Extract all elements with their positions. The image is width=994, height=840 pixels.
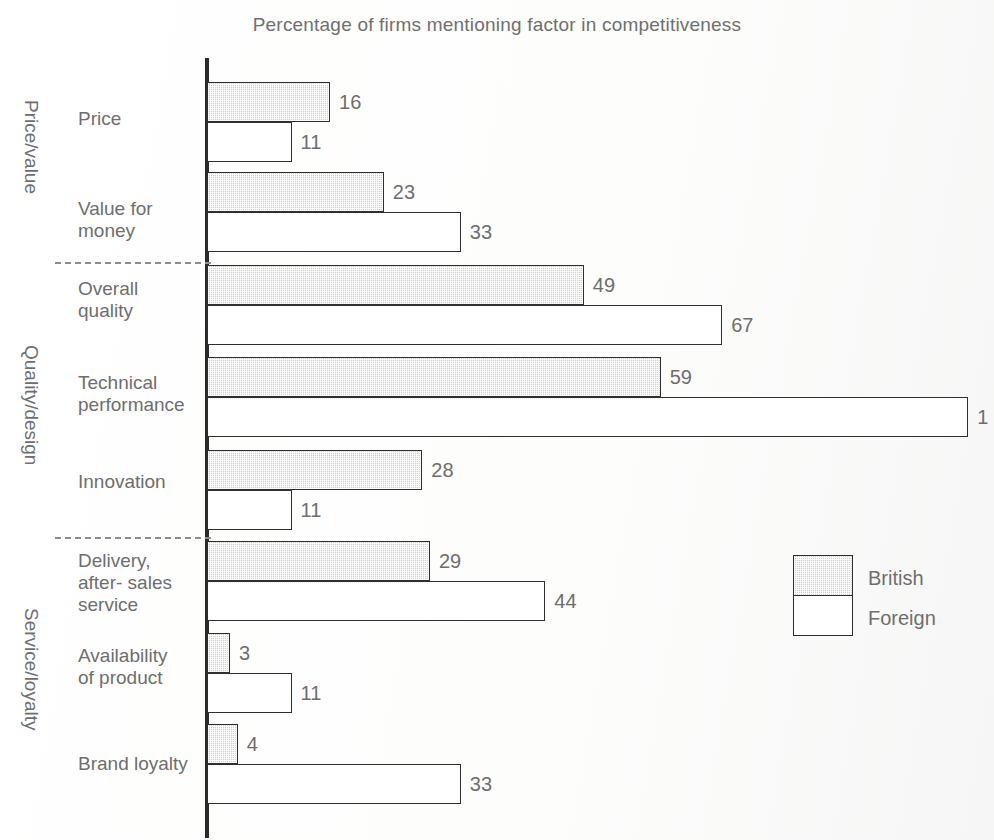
bar-value-foreign: 44 bbox=[554, 591, 576, 611]
bar-value-foreign: 11 bbox=[301, 132, 322, 152]
group-label: Price/value bbox=[20, 100, 42, 194]
plot-area: 1611Price2333Value for money4967Overall … bbox=[0, 0, 994, 840]
bar-value-british: 16 bbox=[339, 92, 361, 112]
bar-foreign bbox=[207, 212, 461, 252]
bar-british bbox=[207, 541, 430, 581]
bar-british bbox=[207, 450, 422, 490]
bar-value-british: 28 bbox=[431, 460, 453, 480]
bar-value-foreign: 33 bbox=[470, 774, 492, 794]
bar-foreign bbox=[207, 581, 545, 621]
group-label: Service/loyalty bbox=[20, 608, 42, 731]
bar-british bbox=[207, 633, 230, 673]
category-label: Value for money bbox=[78, 198, 153, 242]
bar-value-british: 29 bbox=[439, 551, 461, 571]
bar-value-foreign: 11 bbox=[301, 500, 322, 520]
bar-value-british: 23 bbox=[393, 182, 415, 202]
bar-value-foreign: 11 bbox=[301, 683, 322, 703]
category-label: Price bbox=[78, 108, 121, 130]
bar-value-british: 4 bbox=[247, 734, 258, 754]
category-label: Brand loyalty bbox=[78, 753, 188, 775]
bar-foreign bbox=[207, 764, 461, 804]
bar-value-british: 3 bbox=[239, 643, 250, 663]
bar-british bbox=[207, 357, 661, 397]
legend-swatch-foreign bbox=[793, 595, 853, 636]
bar-foreign bbox=[207, 673, 292, 713]
category-label: Innovation bbox=[78, 471, 166, 493]
bar-foreign bbox=[207, 490, 292, 530]
bar-british bbox=[207, 265, 584, 305]
bar-foreign bbox=[207, 305, 722, 345]
bar-value-british: 59 bbox=[670, 367, 692, 387]
bar-foreign bbox=[207, 397, 968, 437]
group-divider-1 bbox=[55, 262, 211, 264]
category-label: Availability of product bbox=[78, 645, 167, 689]
category-label: Technical performance bbox=[78, 372, 185, 416]
legend-label-foreign: Foreign bbox=[868, 607, 936, 630]
category-label: Delivery, after- sales service bbox=[78, 550, 172, 616]
legend-swatch-british bbox=[793, 555, 853, 596]
chart-page: Percentage of firms mentioning factor in… bbox=[0, 0, 994, 840]
group-divider-2 bbox=[55, 537, 211, 539]
group-label: Quality/design bbox=[20, 345, 42, 465]
category-label: Overall quality bbox=[78, 278, 138, 322]
bar-british bbox=[207, 82, 330, 122]
legend-label-british: British bbox=[868, 567, 924, 590]
bar-foreign bbox=[207, 122, 292, 162]
bar-british bbox=[207, 724, 238, 764]
bar-value-foreign: 67 bbox=[731, 315, 753, 335]
bar-value-british: 49 bbox=[593, 275, 615, 295]
bar-value-foreign: 33 bbox=[470, 222, 492, 242]
bar-british bbox=[207, 172, 384, 212]
bar-value-foreign: 1 bbox=[977, 407, 988, 427]
